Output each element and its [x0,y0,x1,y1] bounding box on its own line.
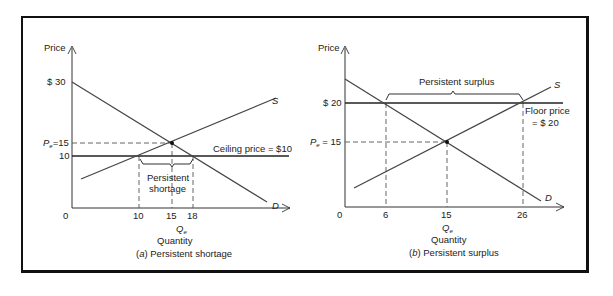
y-tick-equilibrium: Pe=15 [43,137,69,149]
y-tick-equilibrium: Pe = 15 [310,136,341,148]
x-tick-15: 15 [441,209,452,220]
x-tick-10: 10 [133,210,144,221]
demand-label: D [272,200,279,211]
x-tick-0: 0 [63,210,68,221]
figure-svg: Price $ 30 Pe=15 10 Ceiling price = $10 … [0,0,613,296]
supply-label: S [272,95,279,106]
supply-curve [354,87,551,188]
y-tick-10: 10 [59,150,70,161]
shortage-label-line2: shortage [149,183,186,194]
x-tick-18: 18 [187,210,198,221]
supply-curve [81,98,276,179]
x-equilibrium-label: Qe [442,222,453,234]
supply-label: S [554,79,561,90]
x-tick-15: 15 [166,210,177,221]
shortage-label-line1: Persistent [147,172,190,183]
ceiling-price-label: Ceiling price = $10 [213,143,292,154]
x-tick-6: 6 [383,209,388,220]
x-tick-0: 0 [337,209,342,220]
x-axis-label: Quantity [431,234,467,245]
demand-curve [345,79,541,201]
equilibrium-point [170,141,174,145]
floor-price-label-line1: Floor price [525,105,570,116]
x-tick-26: 26 [517,209,528,220]
floor-price-label-line2: = $ 20 [532,117,559,128]
x-equilibrium-label: Qe [176,223,187,235]
equilibrium-point [445,140,449,144]
surplus-label: Persistent surplus [419,76,495,87]
y-axis-label: Price [318,42,340,53]
y-tick-20: $ 20 [323,97,342,108]
x-axis-label: Quantity [157,235,193,246]
panel-b-caption: (b) Persistent surplus [409,247,499,258]
shortage-bracket [140,159,193,167]
surplus-bracket [386,91,523,100]
panel-a-persistent-shortage: Price $ 30 Pe=15 10 Ceiling price = $10 … [43,42,292,259]
y-axis-label: Price [44,42,66,53]
y-tick-30: $ 30 [47,76,66,87]
panel-b-persistent-surplus: Price $ 20 Pe = 15 Persistent surplus Fl… [310,42,570,258]
panel-a-caption: (a) Persistent shortage [136,248,232,259]
demand-label: D [545,192,552,203]
